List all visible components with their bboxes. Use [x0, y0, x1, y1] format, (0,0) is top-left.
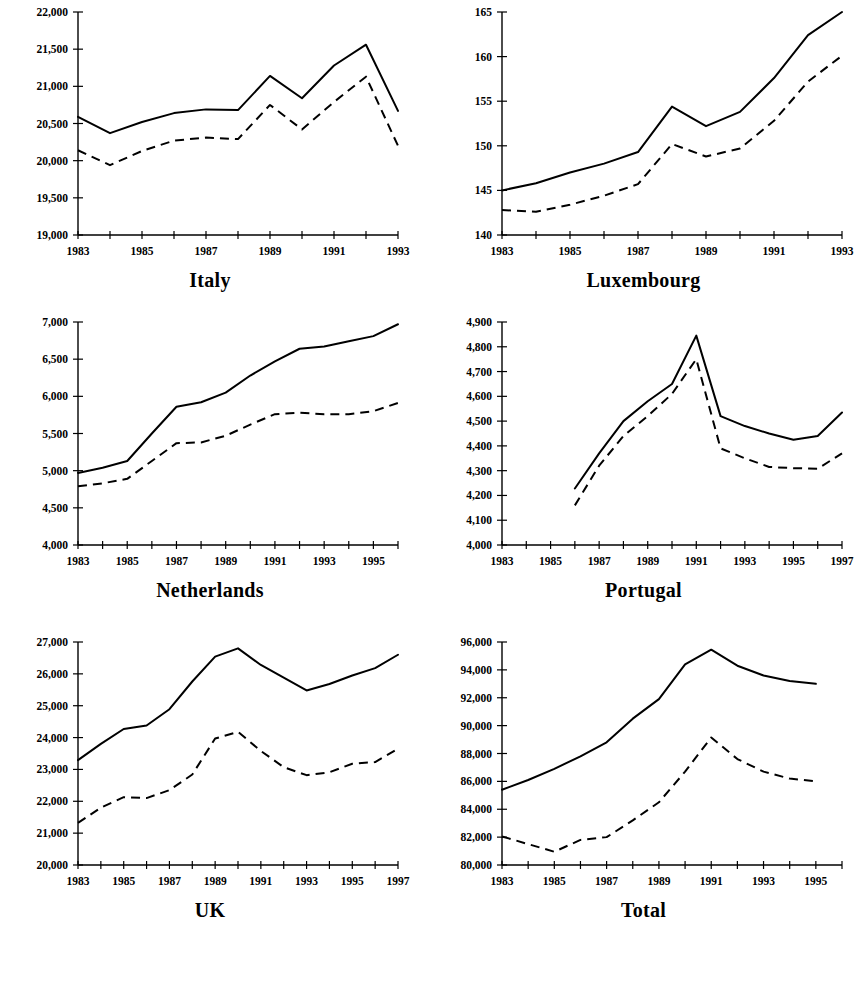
x-axis-tick-label: 1987 — [595, 875, 618, 887]
x-axis-tick-label: 1985 — [539, 555, 562, 567]
x-axis-tick-label: 1991 — [762, 245, 785, 257]
x-axis-tick-label: 1985 — [542, 875, 565, 887]
chart-svg-italy: 19,00019,50020,00020,50021,00021,50022,0… — [10, 0, 410, 265]
chart-svg-uk: 20,00021,00022,00023,00024,00025,00026,0… — [10, 630, 410, 895]
x-axis-tick-label: 1997 — [387, 875, 410, 887]
chart-panel-netherlands: 4,0004,5005,0005,5006,0006,5007,00019831… — [0, 310, 420, 630]
y-axis-tick-label: 27,000 — [36, 636, 68, 648]
x-axis-tick-label: 1983 — [67, 245, 90, 257]
chart-title-luxembourg: Luxembourg — [586, 269, 700, 292]
y-axis-tick-label: 4,500 — [42, 502, 68, 514]
y-axis-tick-label: 19,500 — [36, 192, 68, 204]
y-axis-tick-label: 4,700 — [466, 366, 492, 378]
x-axis-tick-label: 1985 — [558, 245, 581, 257]
y-axis-tick-label: 145 — [474, 184, 492, 196]
y-axis-tick-label: 4,300 — [466, 465, 492, 477]
x-axis-tick-label: 1989 — [204, 875, 227, 887]
x-axis-tick-label: 1987 — [626, 245, 649, 257]
y-axis-tick-label: 90,000 — [460, 720, 492, 732]
x-axis-tick-label: 1989 — [636, 555, 659, 567]
x-axis-tick-label: 1991 — [699, 875, 722, 887]
y-axis-tick-label: 5,000 — [42, 465, 68, 477]
y-axis-tick-label: 140 — [474, 229, 492, 241]
series-line-dashed — [502, 56, 842, 212]
chart-svg-luxembourg: 1401451501551601651983198519871989199119… — [434, 0, 854, 265]
x-axis-tick-label: 1987 — [587, 555, 610, 567]
x-axis-tick-label: 1993 — [295, 875, 318, 887]
y-axis-tick-label: 23,000 — [36, 763, 68, 775]
y-axis-tick-label: 20,000 — [36, 859, 68, 871]
y-axis-tick-label: 26,000 — [36, 668, 68, 680]
x-axis-tick-label: 1991 — [249, 875, 272, 887]
chart-title-total: Total — [621, 899, 666, 922]
x-axis-tick-label: 1995 — [362, 555, 385, 567]
x-axis-tick-label: 1987 — [165, 555, 188, 567]
x-axis-tick-label: 1983 — [490, 555, 513, 567]
y-axis-tick-label: 21,500 — [36, 43, 68, 55]
y-axis-tick-label: 19,000 — [36, 229, 68, 241]
x-axis-tick-label: 1991 — [323, 245, 346, 257]
y-axis-tick-label: 22,000 — [36, 6, 68, 18]
chart-title-uk: UK — [195, 899, 226, 922]
y-axis-tick-label: 6,000 — [42, 390, 68, 402]
y-axis-tick-label: 155 — [474, 95, 492, 107]
y-axis-tick-label: 96,000 — [460, 636, 492, 648]
x-axis-tick-label: 1995 — [781, 555, 804, 567]
series-line-dashed — [78, 403, 398, 486]
x-axis-tick-label: 1983 — [490, 875, 513, 887]
plot-area-netherlands: 4,0004,5005,0005,5006,0006,5007,00019831… — [10, 310, 410, 575]
x-axis-tick-label: 1991 — [684, 555, 707, 567]
x-axis-tick-label: 1987 — [195, 245, 218, 257]
chart-svg-netherlands: 4,0004,5005,0005,5006,0006,5007,00019831… — [10, 310, 410, 575]
chart-title-italy: Italy — [189, 269, 231, 292]
x-axis-tick-label: 1997 — [830, 555, 853, 567]
x-axis-tick-label: 1983 — [67, 555, 90, 567]
y-axis-tick-label: 25,000 — [36, 700, 68, 712]
y-axis-tick-label: 80,000 — [460, 859, 492, 871]
y-axis-tick-label: 4,600 — [466, 390, 492, 402]
plot-area-italy: 19,00019,50020,00020,50021,00021,50022,0… — [10, 0, 410, 265]
chart-panel-uk: 20,00021,00022,00023,00024,00025,00026,0… — [0, 630, 420, 985]
series-line-dashed — [78, 732, 398, 823]
y-axis-tick-label: 165 — [474, 6, 492, 18]
y-axis-tick-label: 4,100 — [466, 514, 492, 526]
small-multiples-figure: 19,00019,50020,00020,50021,00021,50022,0… — [0, 0, 867, 985]
x-axis-tick-label: 1985 — [131, 245, 154, 257]
x-axis-tick-label: 1983 — [67, 875, 90, 887]
y-axis-tick-label: 84,000 — [460, 803, 492, 815]
chart-title-portugal: Portugal — [605, 579, 682, 602]
x-axis-tick-label: 1989 — [259, 245, 282, 257]
y-axis-tick-label: 21,000 — [36, 80, 68, 92]
y-axis-tick-label: 160 — [474, 51, 492, 63]
x-axis-tick-label: 1993 — [752, 875, 775, 887]
y-axis-tick-label: 21,000 — [36, 827, 68, 839]
x-axis-tick-label: 1995 — [804, 875, 827, 887]
chart-panel-italy: 19,00019,50020,00020,50021,00021,50022,0… — [0, 0, 420, 310]
chart-panel-portugal: 4,0004,1004,2004,3004,4004,5004,6004,700… — [420, 310, 867, 630]
plot-area-luxembourg: 1401451501551601651983198519871989199119… — [434, 0, 854, 265]
series-line-solid — [502, 650, 816, 790]
y-axis-tick-label: 4,400 — [466, 440, 492, 452]
y-axis-tick-label: 86,000 — [460, 775, 492, 787]
y-axis-tick-label: 4,800 — [466, 341, 492, 353]
chart-panel-luxembourg: 1401451501551601651983198519871989199119… — [420, 0, 867, 310]
x-axis-tick-label: 1993 — [830, 245, 853, 257]
y-axis-tick-label: 82,000 — [460, 831, 492, 843]
x-axis-tick-label: 1983 — [490, 245, 513, 257]
x-axis-tick-label: 1995 — [341, 875, 364, 887]
series-line-solid — [78, 324, 398, 473]
x-axis-tick-label: 1993 — [313, 555, 336, 567]
y-axis-tick-label: 20,000 — [36, 155, 68, 167]
y-axis-tick-label: 24,000 — [36, 732, 68, 744]
y-axis-tick-label: 88,000 — [460, 748, 492, 760]
x-axis-tick-label: 1985 — [116, 555, 139, 567]
chart-svg-total: 80,00082,00084,00086,00088,00090,00092,0… — [434, 630, 854, 895]
x-axis-tick-label: 1989 — [647, 875, 670, 887]
chart-panel-total: 80,00082,00084,00086,00088,00090,00092,0… — [420, 630, 867, 985]
x-axis-tick-label: 1987 — [158, 875, 181, 887]
chart-title-netherlands: Netherlands — [156, 579, 264, 602]
plot-area-portugal: 4,0004,1004,2004,3004,4004,5004,6004,700… — [434, 310, 854, 575]
y-axis-tick-label: 22,000 — [36, 795, 68, 807]
y-axis-tick-label: 5,500 — [42, 428, 68, 440]
series-line-dashed — [502, 737, 816, 851]
